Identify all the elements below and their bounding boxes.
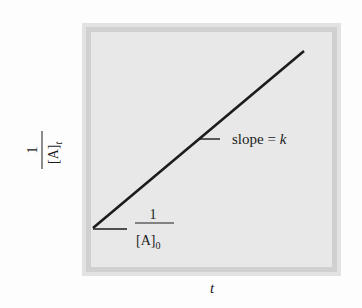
slope-annotation: slope = k <box>232 131 287 147</box>
x-axis-label: t <box>210 280 215 296</box>
y-axis-label: 1 [A]t <box>25 131 64 169</box>
plot-area <box>91 32 332 267</box>
chart-figure: slope = k 1 [A]0 1 [A]t t <box>0 0 362 308</box>
intercept-numerator: 1 <box>150 207 157 222</box>
chart-canvas: slope = k 1 [A]0 1 [A]t t <box>0 0 362 308</box>
svg-text:1: 1 <box>25 147 40 154</box>
svg-text:[A]t: [A]t <box>46 142 64 164</box>
